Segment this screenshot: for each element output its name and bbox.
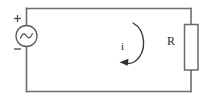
resistor-label: R [167,35,175,47]
polarity-plus-icon [14,15,21,22]
current-arrow-arc [125,23,144,63]
current-arrow-head-icon [120,59,129,66]
resistor-symbol [185,25,199,71]
circuit-diagram: R i [0,0,212,96]
current-label: i [121,41,124,52]
circuit-schematic-canvas [0,0,212,96]
